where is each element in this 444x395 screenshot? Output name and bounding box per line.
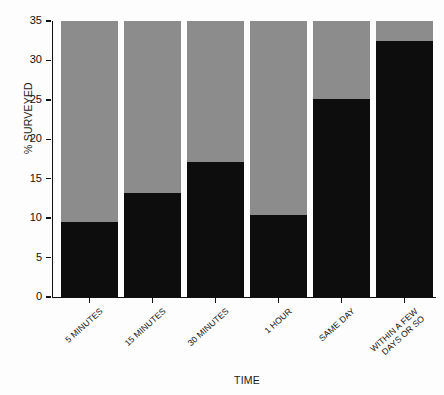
x-tick-mark <box>89 298 90 303</box>
y-tick-mark <box>46 99 51 100</box>
y-tick-mark <box>46 257 51 258</box>
y-tick-mark <box>46 20 51 21</box>
plot-area <box>58 21 436 297</box>
y-tick-label: 35 <box>20 15 42 26</box>
bar-segment-remainder <box>313 21 371 99</box>
y-tick-mark <box>46 139 51 140</box>
y-tick-mark <box>46 178 51 179</box>
y-axis-title: % SURVEYED <box>22 18 34 218</box>
y-tick-mark <box>46 60 51 61</box>
y-tick-mark <box>46 217 51 218</box>
bar-segment-remainder <box>376 21 434 41</box>
y-tick-label: 10 <box>20 212 42 223</box>
x-tick-mark <box>215 298 216 303</box>
bar-group <box>187 21 245 297</box>
bar-segment-respondents <box>376 41 434 297</box>
y-tick-label: 25 <box>20 94 42 105</box>
x-axis-title: TIME <box>187 374 307 386</box>
bar-group <box>376 21 434 297</box>
y-tick-label: 5 <box>20 252 42 263</box>
bar-segment-remainder <box>187 21 245 162</box>
x-tick-mark <box>278 298 279 303</box>
y-tick-label: 30 <box>20 54 42 65</box>
bar-segment-respondents <box>250 215 308 297</box>
y-tick-label: 20 <box>20 133 42 144</box>
bar-group <box>124 21 182 297</box>
bar-chart: % SURVEYED 05101520253035 5 MINUTES15 MI… <box>0 0 444 395</box>
x-tick-mark <box>404 298 405 303</box>
bar-segment-respondents <box>313 99 371 297</box>
x-tick-mark <box>341 298 342 303</box>
bar-group <box>313 21 371 297</box>
y-tick-label: 0 <box>20 291 42 302</box>
bar-segment-remainder <box>124 21 182 193</box>
x-axis-line <box>52 297 436 298</box>
bar-segment-respondents <box>187 162 245 297</box>
y-tick-mark <box>46 296 51 297</box>
bar-segment-remainder <box>250 21 308 215</box>
y-axis-line <box>52 21 53 298</box>
bar-segment-respondents <box>124 193 182 297</box>
bar-segment-remainder <box>61 21 119 222</box>
x-tick-mark <box>152 298 153 303</box>
bar-segment-respondents <box>61 222 119 297</box>
bar-group <box>61 21 119 297</box>
y-tick-label: 15 <box>20 173 42 184</box>
bar-group <box>250 21 308 297</box>
